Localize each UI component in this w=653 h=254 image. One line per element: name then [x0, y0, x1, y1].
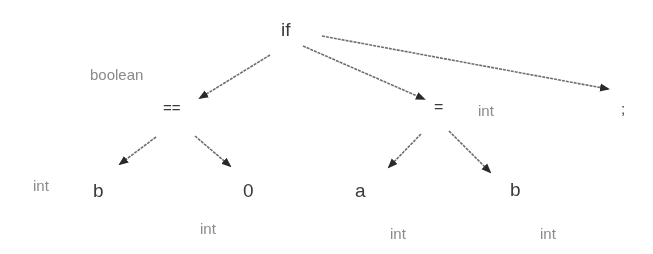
node-assign: =	[434, 99, 443, 115]
type-label-b1: int	[33, 178, 49, 193]
tree-edges	[0, 0, 653, 254]
edge-if-assign	[303, 46, 424, 99]
edge-assign-a	[389, 134, 421, 167]
type-label-assign: int	[478, 103, 494, 118]
edge-eq-b1	[120, 137, 156, 164]
node-b-left: b	[93, 181, 104, 200]
node-equals-equals: ==	[163, 100, 181, 115]
node-semicolon: ;	[621, 101, 625, 116]
syntax-tree-diagram: if boolean == = int ; int b 0 int a int …	[0, 0, 653, 254]
node-a: a	[355, 181, 366, 200]
edge-assign-b2	[449, 131, 490, 172]
node-if: if	[281, 20, 291, 39]
type-label-b2: int	[540, 226, 556, 241]
edge-eq-zero	[195, 136, 230, 166]
node-b-right: b	[510, 180, 521, 199]
type-label-eq: boolean	[90, 67, 143, 82]
edge-if-semi	[322, 36, 608, 89]
edge-if-eq	[200, 55, 270, 98]
type-label-a: int	[390, 226, 406, 241]
type-label-zero: int	[200, 221, 216, 236]
node-zero: 0	[243, 181, 254, 200]
